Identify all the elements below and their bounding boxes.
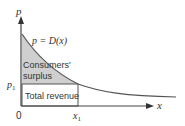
y-axis-label: p: [15, 5, 22, 17]
x-axis-arrow-icon: [146, 103, 154, 109]
consumers-surplus-label-line2: surplus: [23, 71, 53, 81]
x-axis-label: x: [156, 99, 162, 111]
demand-curve-diagram: p x 0 p = D(x) Consumers' surplus Total …: [0, 0, 185, 126]
origin-label: 0: [16, 110, 22, 121]
quantity-x1-label: x1: [72, 110, 81, 123]
consumers-surplus-label-line1: Consumers': [23, 60, 71, 70]
total-revenue-label: Total revenue: [25, 91, 79, 101]
price-p1-label: p1: [6, 79, 16, 92]
curve-label: p = D(x): [31, 35, 68, 47]
y-axis-arrow-icon: [18, 16, 24, 24]
